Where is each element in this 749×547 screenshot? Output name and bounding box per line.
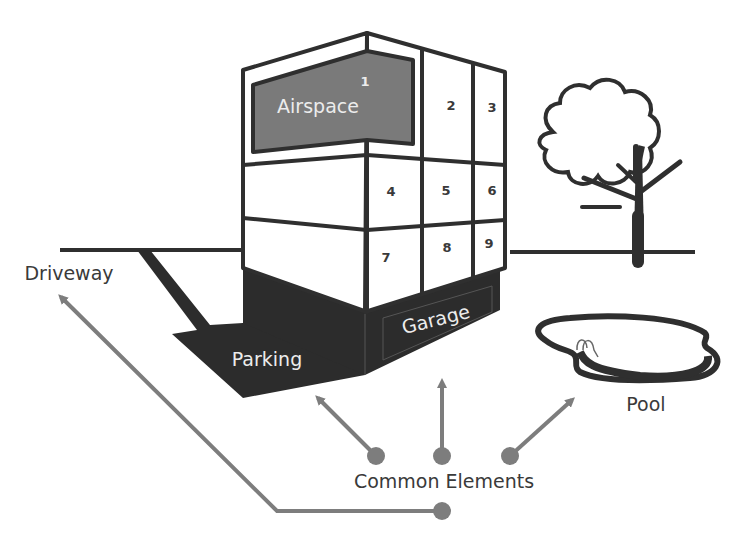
unit-6-number: 6 [487, 183, 496, 198]
parking-label: Parking [232, 348, 302, 370]
unit-4-number: 4 [386, 184, 395, 199]
connector-parking [318, 398, 376, 456]
connector-dot-parking [367, 447, 385, 465]
unit-2-number: 2 [446, 98, 455, 113]
unit-8-number: 8 [442, 240, 451, 255]
pool-label: Pool [626, 393, 665, 415]
driveway-label: Driveway [24, 262, 113, 284]
airspace-label: Airspace [277, 95, 359, 117]
building [243, 33, 505, 312]
common-elements-label: Common Elements [354, 470, 534, 492]
connector-dot-pool [501, 447, 519, 465]
condo-common-elements-diagram: 1 2 3 4 5 6 7 8 9 Airspace Garage Parkin… [0, 0, 749, 547]
unit-5-number: 5 [441, 183, 450, 198]
unit-1-number: 1 [360, 74, 369, 89]
pool-icon [538, 316, 717, 380]
unit-3-number: 3 [487, 100, 496, 115]
connector-pool [510, 400, 572, 456]
unit-7-number: 7 [381, 250, 390, 265]
connector-dot-driveway [433, 502, 451, 520]
unit-9-number: 9 [484, 236, 493, 251]
connector-dot-garage [433, 447, 451, 465]
tree-icon [539, 80, 680, 268]
